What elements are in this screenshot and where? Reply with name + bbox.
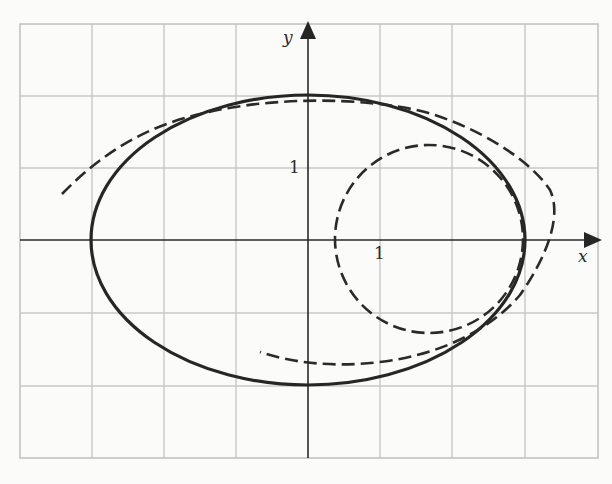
x-axis-label: x	[578, 246, 588, 266]
y-tick-label-1: 1	[289, 157, 300, 177]
small-osculating-circle	[335, 145, 523, 333]
y-axis-label: y	[282, 27, 293, 47]
x-tick-label-1: 1	[374, 243, 385, 263]
axes: x y 1 1	[20, 21, 602, 458]
ellipse-osculating-circles-diagram: x y 1 1	[0, 0, 612, 484]
grid	[20, 24, 598, 458]
